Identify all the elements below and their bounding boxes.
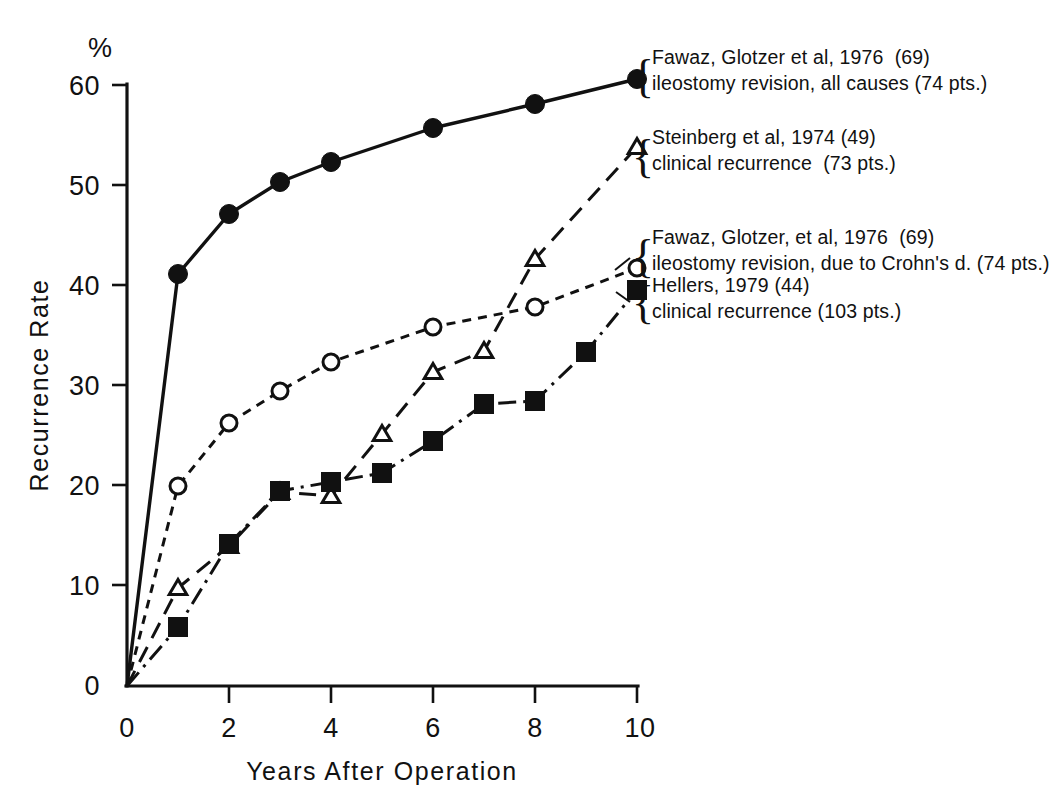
legend-line: Hellers, 1979 (44) (652, 272, 901, 298)
x-tick-label: 0 (119, 713, 135, 743)
x-axis-title: Years After Operation (246, 757, 518, 785)
series-steinberg-clinical-recurrence (127, 138, 646, 686)
legend-entry-steinberg: Steinberg et al, 1974 (49) clinical recu… (652, 124, 896, 176)
series-fawaz-all-causes (127, 70, 647, 687)
data-point-hellers-clinical-recurrence (526, 392, 545, 411)
data-point-fawaz-all-causes (271, 173, 290, 192)
data-series-layer (127, 70, 647, 687)
legend-brace-2: { (632, 131, 654, 182)
data-point-fawaz-all-causes (424, 119, 443, 138)
series-line-steinberg-clinical-recurrence (127, 147, 637, 686)
y-tick-label: 40 (69, 271, 100, 301)
chart-canvas: 60 50 40 30 20 10 0 % Recurrence Rate 0 … (0, 0, 1059, 801)
y-tick-label: 50 (69, 171, 100, 201)
data-point-fawaz-all-causes (169, 265, 188, 284)
legend-entry-fawaz-crohns: Fawaz, Glotzer, et al, 1976 (69) ileosto… (652, 224, 1050, 276)
data-point-fawaz-all-causes (220, 205, 239, 224)
data-point-hellers-clinical-recurrence (322, 473, 341, 492)
legend-line: clinical recurrence (73 pts.) (652, 150, 896, 176)
data-point-fawaz-crohns-disease (425, 319, 441, 335)
legend-line: Fawaz, Glotzer et al, 1976 (69) (652, 44, 987, 70)
x-tick-label: 10 (624, 713, 655, 743)
y-tick-label: 10 (69, 571, 100, 601)
y-tick-label: 0 (84, 671, 100, 701)
x-axis-ticks (229, 686, 637, 703)
y-axis-title: Recurrence Rate (25, 279, 53, 492)
y-tick-label: 60 (69, 71, 100, 101)
legend-braces: { { { { (615, 51, 654, 328)
data-point-fawaz-crohns-disease (527, 299, 543, 315)
x-tick-label: 8 (527, 713, 543, 743)
data-point-hellers-clinical-recurrence (271, 482, 290, 501)
data-point-fawaz-crohns-disease (323, 354, 339, 370)
legend-brace-3: { (632, 231, 654, 282)
data-point-fawaz-crohns-disease (221, 415, 237, 431)
data-point-steinberg-clinical-recurrence (475, 342, 493, 357)
legend-entry-fawaz-all-causes: Fawaz, Glotzer et al, 1976 (69) ileostom… (652, 44, 987, 96)
legend-brace-4: { (632, 277, 654, 328)
x-tick-label: 2 (221, 713, 237, 743)
recurrence-rate-chart: 60 50 40 30 20 10 0 % Recurrence Rate 0 … (0, 0, 1059, 801)
data-point-fawaz-all-causes (322, 153, 341, 172)
y-tick-label: 30 (69, 371, 100, 401)
series-line-fawaz-all-causes (127, 79, 637, 686)
legend-brace-1: { (632, 51, 654, 102)
y-axis-ticks (112, 85, 127, 585)
data-point-hellers-clinical-recurrence (577, 343, 596, 362)
legend-line: Steinberg et al, 1974 (49) (652, 124, 896, 150)
data-point-hellers-clinical-recurrence (373, 464, 392, 483)
data-point-fawaz-all-causes (526, 95, 545, 114)
series-line-hellers-clinical-recurrence (127, 290, 637, 686)
x-tick-label: 6 (425, 713, 441, 743)
y-tick-label: 20 (69, 471, 100, 501)
y-axis-unit-label: % (88, 33, 112, 63)
legend-line: clinical recurrence (103 pts.) (652, 298, 901, 324)
data-point-fawaz-crohns-disease (170, 478, 186, 494)
data-point-hellers-clinical-recurrence (475, 395, 494, 414)
legend-line: Fawaz, Glotzer, et al, 1976 (69) (652, 224, 1050, 250)
data-point-fawaz-crohns-disease (272, 383, 288, 399)
data-point-hellers-clinical-recurrence (220, 535, 239, 554)
x-tick-label: 4 (323, 713, 339, 743)
data-point-hellers-clinical-recurrence (169, 618, 188, 637)
legend-entry-hellers: Hellers, 1979 (44) clinical recurrence (… (652, 272, 901, 324)
axes-group (126, 84, 638, 686)
legend-line: ileostomy revision, all causes (74 pts.) (652, 70, 987, 96)
y-tick-labels: 60 50 40 30 20 10 0 (69, 71, 100, 701)
data-point-hellers-clinical-recurrence (424, 432, 443, 451)
x-tick-labels: 0 2 4 6 8 10 (119, 713, 655, 743)
